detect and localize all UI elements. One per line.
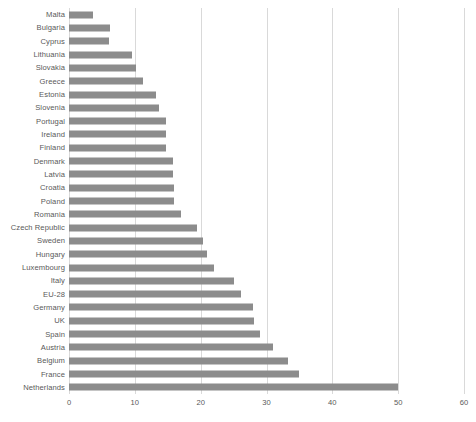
bar-belgium[interactable] xyxy=(69,357,288,364)
category-label-denmark: Denmark xyxy=(0,157,65,166)
bar-row[interactable] xyxy=(69,114,464,127)
bar-chart: MaltaBulgariaCyprusLithuaniaSlovakiaGree… xyxy=(0,0,476,422)
category-label-greece: Greece xyxy=(0,77,65,86)
bar-uk[interactable] xyxy=(69,317,254,324)
bar-slovenia[interactable] xyxy=(69,104,159,111)
category-label-luxembourg: Luxembourg xyxy=(0,263,65,272)
category-label-slovenia: Slovenia xyxy=(0,103,65,112)
category-label-latvia: Latvia xyxy=(0,170,65,179)
category-label-portugal: Portugal xyxy=(0,117,65,126)
x-tick-label-50: 50 xyxy=(394,398,402,407)
bar-estonia[interactable] xyxy=(69,91,156,98)
bar-netherlands[interactable] xyxy=(69,384,398,391)
bar-czech-republic[interactable] xyxy=(69,224,197,231)
bar-row[interactable] xyxy=(69,354,464,367)
category-axis-labels: MaltaBulgariaCyprusLithuaniaSlovakiaGree… xyxy=(0,8,65,394)
bar-row[interactable] xyxy=(69,327,464,340)
x-tick-label-0: 0 xyxy=(67,398,71,407)
bar-germany[interactable] xyxy=(69,304,253,311)
category-label-eu-28: EU-28 xyxy=(0,290,65,299)
bar-lithuania[interactable] xyxy=(69,51,132,58)
bar-row[interactable] xyxy=(69,301,464,314)
category-label-sweden: Sweden xyxy=(0,236,65,245)
x-tick-label-20: 20 xyxy=(196,398,204,407)
bar-ireland[interactable] xyxy=(69,131,166,138)
bar-latvia[interactable] xyxy=(69,171,173,178)
bar-row[interactable] xyxy=(69,274,464,287)
gridline-60 xyxy=(464,8,465,394)
bar-row[interactable] xyxy=(69,381,464,394)
bar-row[interactable] xyxy=(69,261,464,274)
bar-row[interactable] xyxy=(69,48,464,61)
category-label-spain: Spain xyxy=(0,330,65,339)
bar-row[interactable] xyxy=(69,248,464,261)
bar-row[interactable] xyxy=(69,128,464,141)
bar-poland[interactable] xyxy=(69,197,174,204)
bar-row[interactable] xyxy=(69,168,464,181)
bar-row[interactable] xyxy=(69,208,464,221)
bar-bulgaria[interactable] xyxy=(69,24,110,31)
x-tick-label-30: 30 xyxy=(262,398,270,407)
bar-malta[interactable] xyxy=(69,11,93,18)
bar-spain[interactable] xyxy=(69,331,260,338)
bar-row[interactable] xyxy=(69,21,464,34)
category-label-finland: Finland xyxy=(0,143,65,152)
category-label-poland: Poland xyxy=(0,197,65,206)
bar-greece[interactable] xyxy=(69,78,143,85)
category-label-austria: Austria xyxy=(0,343,65,352)
bar-row[interactable] xyxy=(69,221,464,234)
bar-portugal[interactable] xyxy=(69,118,166,125)
bar-row[interactable] xyxy=(69,154,464,167)
x-tick-label-40: 40 xyxy=(328,398,336,407)
x-tick-label-10: 10 xyxy=(131,398,139,407)
category-label-ireland: Ireland xyxy=(0,130,65,139)
bar-row[interactable] xyxy=(69,35,464,48)
bar-row[interactable] xyxy=(69,288,464,301)
category-label-belgium: Belgium xyxy=(0,356,65,365)
category-label-italy: Italy xyxy=(0,276,65,285)
bar-row[interactable] xyxy=(69,181,464,194)
bar-france[interactable] xyxy=(69,371,299,378)
bar-row[interactable] xyxy=(69,88,464,101)
category-label-germany: Germany xyxy=(0,303,65,312)
category-label-czech-republic: Czech Republic xyxy=(0,223,65,232)
bar-finland[interactable] xyxy=(69,144,166,151)
value-axis-labels: 0102030405060 xyxy=(69,394,464,414)
category-label-bulgaria: Bulgaria xyxy=(0,23,65,32)
bar-row[interactable] xyxy=(69,314,464,327)
bar-series xyxy=(69,8,464,394)
category-label-croatia: Croatia xyxy=(0,183,65,192)
bar-croatia[interactable] xyxy=(69,184,174,191)
category-label-slovakia: Slovakia xyxy=(0,63,65,72)
bar-romania[interactable] xyxy=(69,211,181,218)
category-label-malta: Malta xyxy=(0,10,65,19)
category-label-uk: UK xyxy=(0,316,65,325)
bar-row[interactable] xyxy=(69,101,464,114)
category-label-cyprus: Cyprus xyxy=(0,37,65,46)
bar-row[interactable] xyxy=(69,194,464,207)
bar-cyprus[interactable] xyxy=(69,38,109,45)
bar-italy[interactable] xyxy=(69,277,234,284)
bar-row[interactable] xyxy=(69,75,464,88)
bar-row[interactable] xyxy=(69,341,464,354)
x-tick-label-60: 60 xyxy=(460,398,468,407)
bar-denmark[interactable] xyxy=(69,158,173,165)
plot-area xyxy=(69,8,464,394)
bar-row[interactable] xyxy=(69,61,464,74)
bar-sweden[interactable] xyxy=(69,237,203,244)
category-label-france: France xyxy=(0,370,65,379)
bar-austria[interactable] xyxy=(69,344,273,351)
bar-row[interactable] xyxy=(69,141,464,154)
category-label-estonia: Estonia xyxy=(0,90,65,99)
bar-slovakia[interactable] xyxy=(69,64,136,71)
bar-eu-28[interactable] xyxy=(69,291,241,298)
category-label-hungary: Hungary xyxy=(0,250,65,259)
bar-hungary[interactable] xyxy=(69,251,207,258)
category-label-netherlands: Netherlands xyxy=(0,383,65,392)
category-label-romania: Romania xyxy=(0,210,65,219)
category-label-lithuania: Lithuania xyxy=(0,50,65,59)
bar-row[interactable] xyxy=(69,367,464,380)
bar-luxembourg[interactable] xyxy=(69,264,214,271)
bar-row[interactable] xyxy=(69,8,464,21)
bar-row[interactable] xyxy=(69,234,464,247)
